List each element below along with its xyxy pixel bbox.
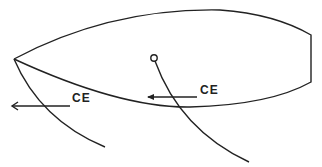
jib-sail-curve (14, 59, 105, 147)
ce-main-label: CE (200, 84, 219, 96)
mainsail-curve (155, 61, 249, 162)
diagram-canvas (0, 0, 322, 167)
mast-icon (151, 55, 157, 61)
ce-front-label: CE (72, 92, 91, 104)
ce-main-arrowhead-icon (147, 94, 154, 100)
hull-outline (14, 10, 311, 107)
hull-diagram: CE CE (0, 0, 322, 167)
